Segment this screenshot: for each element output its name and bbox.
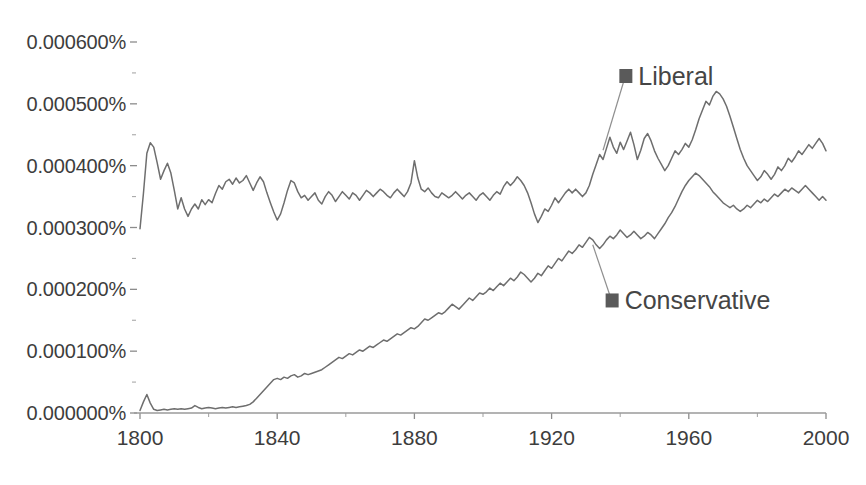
y-axis-tick-label: 0.000600% <box>27 31 127 53</box>
y-axis-labels: 0.000600%0.000500%0.000400%0.000300%0.00… <box>27 31 127 424</box>
annotation-leader-line-liberal <box>603 76 625 150</box>
x-axis-tick-label: 2000 <box>803 426 850 449</box>
annotation-label-liberal: Liberal <box>638 62 713 90</box>
y-axis-tick-label: 0.000500% <box>27 93 127 115</box>
x-axis-tick-label: 1840 <box>254 426 301 449</box>
annotation-marker-conservative <box>606 293 619 307</box>
y-axis-tick-label: 0.000200% <box>27 278 127 300</box>
x-axis-tick-label: 1920 <box>528 426 575 449</box>
annotation-marker-liberal <box>619 69 632 83</box>
y-axis-tick-label: 0.000000% <box>27 402 127 424</box>
y-axis-tick-label: 0.000100% <box>27 340 127 362</box>
y-axis-tick-label: 0.000400% <box>27 155 127 177</box>
y-axis-tick-label: 0.000300% <box>27 217 127 239</box>
annotation-label-conservative: Conservative <box>625 286 771 314</box>
chart-canvas: 0.000600%0.000500%0.000400%0.000300%0.00… <box>0 0 866 485</box>
x-axis-labels: 180018401880192019602000 <box>117 426 850 449</box>
x-axis-ticks <box>140 413 826 419</box>
series-line-liberal <box>140 91 826 228</box>
series-annotations: LiberalConservative <box>593 62 771 314</box>
series-lines <box>140 91 826 410</box>
x-axis-tick-label: 1880 <box>391 426 438 449</box>
x-axis-tick-label: 1960 <box>665 426 712 449</box>
y-axis-ticks <box>130 42 137 413</box>
annotation-leader-line-conservative <box>593 245 612 301</box>
ngram-chart: 0.000600%0.000500%0.000400%0.000300%0.00… <box>0 0 866 485</box>
x-axis-tick-label: 1800 <box>117 426 164 449</box>
